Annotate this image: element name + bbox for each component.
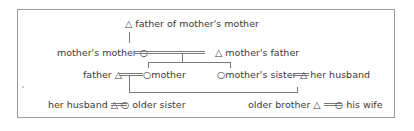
frame-outline — [17, 9, 395, 118]
